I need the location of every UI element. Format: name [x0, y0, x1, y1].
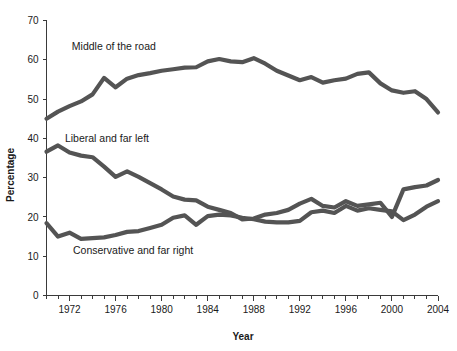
- x-tick-label: 2000: [381, 304, 404, 315]
- line-chart: 010203040506070 197219761980198419881992…: [0, 0, 457, 351]
- y-tick-label: 70: [27, 15, 39, 26]
- series-label-group: Middle of the roadLiberal and far leftCo…: [65, 40, 193, 256]
- y-tick-label: 60: [27, 54, 39, 65]
- x-axis: 197219761980198419881992199620002004: [47, 296, 450, 315]
- x-tick-label: 2004: [427, 304, 450, 315]
- series-line: [47, 58, 439, 119]
- x-tick-label: 1976: [104, 304, 127, 315]
- series-label: Middle of the road: [72, 40, 156, 52]
- x-tick-label: 1984: [197, 304, 220, 315]
- x-tick-label: 1996: [335, 304, 358, 315]
- y-tick-label: 40: [27, 133, 39, 144]
- data-series-group: [47, 58, 439, 239]
- y-axis-title: Percentage: [5, 148, 16, 202]
- y-tick-label: 50: [27, 94, 39, 105]
- y-tick-label: 10: [27, 251, 39, 262]
- y-tick-label: 30: [27, 172, 39, 183]
- series-label: Liberal and far left: [65, 132, 149, 144]
- x-tick-label: 1972: [58, 304, 81, 315]
- x-tick-label: 1992: [289, 304, 312, 315]
- x-axis-title: Year: [232, 331, 253, 342]
- chart-container: 010203040506070 197219761980198419881992…: [0, 0, 457, 351]
- x-tick-label: 1988: [243, 304, 266, 315]
- y-tick-label: 20: [27, 212, 39, 223]
- x-tick-label: 1980: [151, 304, 174, 315]
- y-tick-label: 0: [33, 290, 39, 301]
- series-label: Conservative and far right: [73, 244, 193, 256]
- y-axis: 010203040506070: [27, 15, 46, 301]
